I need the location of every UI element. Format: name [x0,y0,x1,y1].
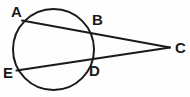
vertex-label-d: D [89,63,100,78]
vertex-label-b: B [92,12,103,27]
vertex-label-c: C [175,40,186,55]
vertex-label-e: E [3,65,13,80]
vertex-label-a: A [11,4,22,19]
geometry-figure: A B C D E [0,0,190,97]
